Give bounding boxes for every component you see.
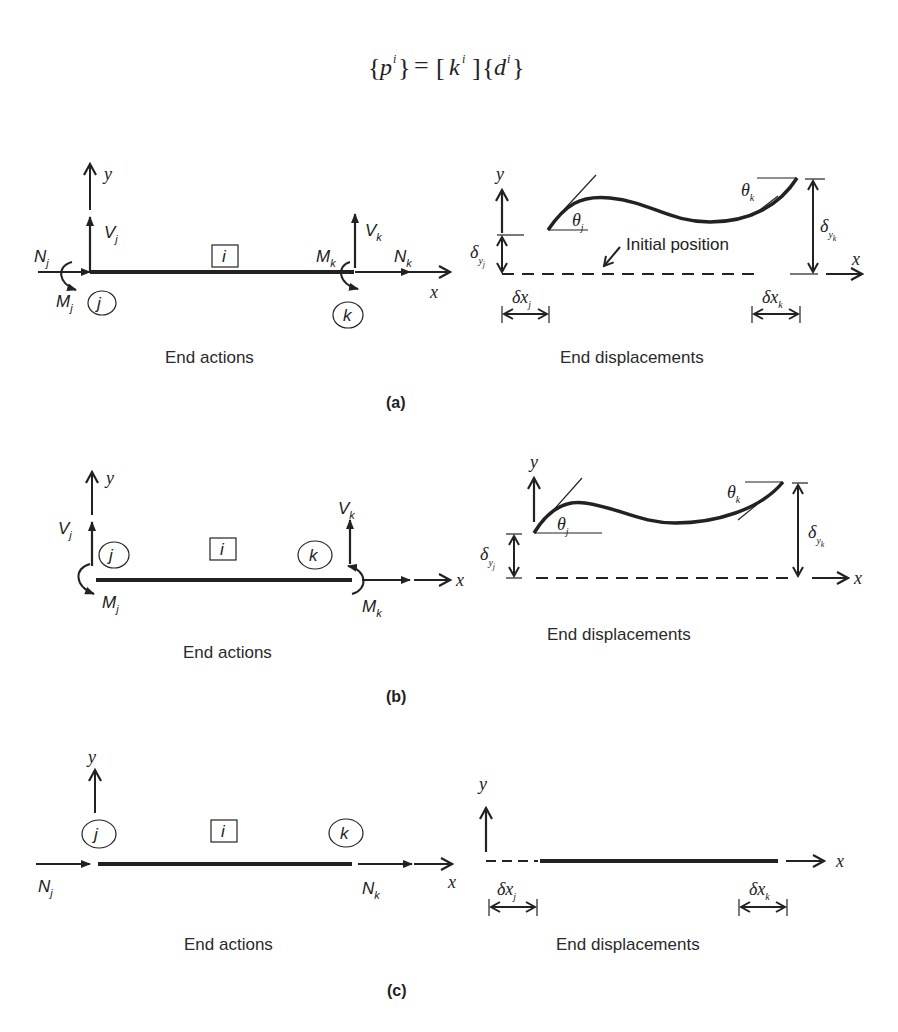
force-nk-label: Nk [362,879,380,901]
force-nk-label: Nk [394,247,412,269]
delta-yj-label: δyj [470,242,486,269]
node-j-label: j [107,546,114,565]
member-label: i [221,822,226,841]
node-j-label: j [92,825,99,844]
bracket-close-icon: ] [472,53,481,82]
bracket-open-icon: [ [436,53,445,82]
tangent-line-j [560,175,596,214]
panel-c-end-actions: y j i k Nj Nk x End actions [36,747,456,954]
equation-k-superscript: i [462,52,465,66]
equation-p-superscript: i [393,52,396,66]
node-j-circle [88,291,116,315]
axis-y-label: y [477,774,487,794]
theta-j-label: θj [557,514,569,537]
delta-xj-label: δxj [512,287,531,310]
moment-mk-label: Mk [316,247,336,269]
panel-a-end-displacements: y δyj x θj θk δyk Initial position δxj δ… [470,164,862,367]
moment-mj-label: Mj [102,593,119,615]
node-k-label: k [309,546,319,565]
caption-end-displacements: End displacements [560,348,704,367]
member-label: i [222,247,227,266]
node-k-label: k [343,306,353,325]
caption-end-actions: End actions [183,643,272,662]
force-nj-label: Nj [34,247,49,269]
caption-end-actions: End actions [184,935,273,954]
axis-y-label: y [494,164,504,184]
brace-open-icon: { [368,53,380,82]
figure-canvas: { p i } = [ k i ] { d i } y Vj Nj Mj i j [0,0,898,1032]
delta-xk-label: δxk [762,287,783,310]
equation-k: k [449,54,460,80]
delta-yk-label: δyk [808,522,825,549]
moment-mj-arrow-icon [61,262,76,290]
caption-end-displacements: End displacements [547,625,691,644]
axis-y-label: y [102,164,112,184]
axis-y-label: y [528,452,538,472]
axis-x-label: x [429,282,438,302]
panel-a-end-actions: y Vj Nj Mj i j Vk Mk Nk x k End actions [34,164,450,367]
panel-c-end-displacements: y x δxj δxk End displacements [477,774,844,954]
tangent-line-j [550,478,582,514]
axis-x-label: x [851,249,860,269]
brace-close-icon: } [512,53,524,82]
axis-x-label: x [853,568,862,588]
axis-x-label: x [455,570,464,590]
moment-mk-label: Mk [362,597,382,619]
equation-d-superscript: i [507,52,510,66]
node-k-label: k [340,824,350,843]
brace-close-icon: } [398,53,410,82]
force-nj-label: Nj [38,877,53,899]
delta-yk-label: δyk [820,216,837,243]
force-vj-label: Vj [104,223,118,245]
node-j-circle [99,542,129,568]
delta-yj-label: δyj [480,544,496,571]
equation-d: d [494,54,507,80]
force-vj-label: Vj [58,519,72,541]
panel-label-c: (c) [387,982,407,999]
equation-p: p [378,54,392,80]
axis-x-label: x [447,872,456,892]
axis-y-label: y [86,747,96,767]
theta-k-label: θk [727,482,741,505]
caption-end-actions: End actions [165,348,254,367]
pointer-arrow-icon [604,247,620,266]
node-j-circle [82,820,116,848]
theta-j-label: θj [572,210,584,233]
brace-open-icon: { [482,53,494,82]
panel-label-a: (a) [386,394,406,411]
force-vk-label: Vk [365,221,382,243]
theta-k-label: θk [741,180,755,203]
delta-xj-label: δxj [497,879,516,902]
member-label: i [220,540,225,559]
panel-b-end-actions: y Vj Mj i j k Vk Mk x End actions [58,468,464,662]
axis-y-label: y [104,468,114,488]
axis-x-label: x [835,851,844,871]
panel-b-end-displacements: y θj θk δyj δyk x End displacements [480,452,862,644]
moment-mj-arrow-icon [78,564,94,594]
node-j-label: j [95,294,102,313]
equation-equals: = [414,51,429,80]
caption-end-displacements: End displacements [556,935,700,954]
moment-mj-label: Mj [56,292,73,314]
delta-xk-label: δxk [749,879,770,902]
initial-position-annotation: Initial position [626,235,729,254]
tangent-line-k [752,196,778,216]
force-vk-label: Vk [338,499,355,521]
panel-label-b: (b) [386,688,406,705]
stiffness-equation: { p i } = [ k i ] { d i } [368,51,524,82]
